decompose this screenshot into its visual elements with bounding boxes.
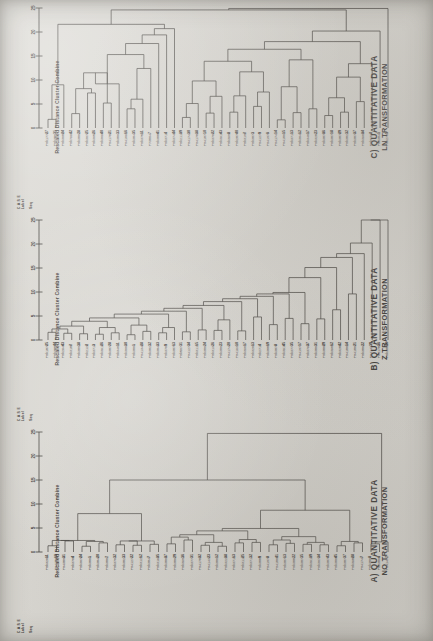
- svg-text:P0b3821: P0b3821: [122, 556, 126, 570]
- svg-text:P0b3861: P0b3861: [105, 556, 109, 570]
- svg-text:15: 15: [31, 53, 36, 59]
- svg-text:P041273: P041273: [130, 556, 134, 570]
- svg-text:10: 10: [31, 77, 36, 83]
- svg-text:P0b3679: P0b3679: [79, 556, 83, 570]
- svg-text:P0b3801: P0b3801: [77, 344, 81, 358]
- svg-text:5: 5: [31, 102, 36, 105]
- svg-text:0: 0: [31, 338, 36, 341]
- svg-text:P0b3879: P0b3879: [353, 132, 357, 146]
- svg-text:P0b3965: P0b3965: [330, 344, 334, 358]
- svg-text:P0b3877: P0b3877: [343, 556, 347, 570]
- svg-text:P0b3877: P0b3877: [108, 344, 112, 358]
- svg-text:P0b3902: P0b3902: [227, 132, 231, 146]
- svg-text:P0b3861: P0b3861: [53, 132, 57, 146]
- svg-text:P0b2125: P0b2125: [85, 344, 89, 358]
- svg-text:P0b3915: P0b3915: [219, 132, 223, 146]
- svg-text:P0b3463: P0b3463: [306, 132, 310, 146]
- svg-text:P0b3867: P0b3867: [203, 344, 207, 358]
- svg-text:P0b3847: P0b3847: [147, 556, 151, 570]
- svg-text:20: 20: [31, 29, 36, 35]
- svg-text:P0b3281: P0b3281: [338, 344, 342, 358]
- svg-text:P0b3713: P0b3713: [290, 132, 294, 146]
- svg-text:P0b3105: P0b3105: [243, 132, 247, 146]
- svg-text:P041747: P041747: [274, 132, 278, 146]
- svg-text:P041861: P041861: [275, 556, 279, 570]
- svg-text:P0b3713: P0b3713: [92, 344, 96, 358]
- panel-caption-c: C) QUANTITATIVE DATA LN TRANSFORMATION: [370, 55, 389, 158]
- svg-text:P0b3649: P0b3649: [298, 132, 302, 146]
- svg-text:P0b3861: P0b3861: [77, 132, 81, 146]
- svg-text:P0b1879: P0b1879: [45, 344, 49, 358]
- svg-text:P041077: P041077: [298, 344, 302, 358]
- svg-text:P0b3269: P0b3269: [251, 344, 255, 358]
- svg-text:P0b3228: P0b3228: [224, 556, 228, 570]
- svg-text:P0b3669: P0b3669: [124, 344, 128, 358]
- svg-text:P0b3185: P0b3185: [69, 344, 73, 358]
- svg-text:P0b2877: P0b2877: [235, 132, 239, 146]
- svg-text:25: 25: [31, 429, 36, 435]
- svg-text:P0b3659: P0b3659: [92, 132, 96, 146]
- svg-text:P0b2711: P0b2711: [258, 344, 262, 358]
- svg-text:P0b3847: P0b3847: [132, 132, 136, 146]
- svg-text:P0b3679: P0b3679: [317, 556, 321, 570]
- svg-text:P0b3875: P0b3875: [338, 132, 342, 146]
- svg-text:P0b3849: P0b3849: [96, 556, 100, 570]
- svg-text:P0b3879: P0b3879: [283, 556, 287, 570]
- svg-text:P0b3885: P0b3885: [266, 344, 270, 358]
- svg-text:P0b3679: P0b3679: [85, 132, 89, 146]
- svg-text:P041077: P041077: [266, 132, 270, 146]
- svg-text:10: 10: [31, 289, 36, 295]
- svg-text:P0b3867: P0b3867: [173, 556, 177, 570]
- svg-text:P0b3777: P0b3777: [190, 556, 194, 570]
- svg-text:P041788: P041788: [198, 556, 202, 570]
- svg-text:P041789: P041789: [108, 132, 112, 146]
- svg-text:P0b3125: P0b3125: [139, 556, 143, 570]
- svg-text:P0b3877: P0b3877: [326, 556, 330, 570]
- svg-text:P0b3269: P0b3269: [45, 556, 49, 570]
- svg-text:P73864: P73864: [148, 134, 152, 146]
- svg-text:P0b3761: P0b3761: [71, 556, 75, 570]
- svg-text:P0b3861: P0b3861: [116, 132, 120, 146]
- svg-text:P0b3134: P0b3134: [211, 344, 215, 358]
- svg-text:P041395: P041395: [54, 556, 58, 570]
- svg-text:P0b3711: P0b3711: [249, 556, 253, 570]
- svg-text:P0b3799: P0b3799: [306, 344, 310, 358]
- svg-text:P041345: P041345: [140, 344, 144, 358]
- svg-text:P0b3960: P0b3960: [243, 344, 247, 358]
- svg-text:P0b3965: P0b3965: [361, 132, 365, 146]
- svg-text:P0b3915: P0b3915: [282, 344, 286, 358]
- svg-text:P0b3863: P0b3863: [215, 556, 219, 570]
- svg-text:P0b3777: P0b3777: [290, 344, 294, 358]
- svg-text:P0b3864: P0b3864: [88, 556, 92, 570]
- svg-text:P0b1779: P0b1779: [45, 132, 49, 146]
- svg-text:P041933: P041933: [235, 344, 239, 358]
- svg-text:P0b3864: P0b3864: [132, 344, 136, 358]
- svg-text:P0b7991: P0b7991: [69, 132, 73, 146]
- svg-text:P041273: P041273: [187, 344, 191, 358]
- svg-text:5: 5: [31, 314, 36, 317]
- svg-text:P0b3463: P0b3463: [116, 344, 120, 358]
- svg-text:P0b3885: P0b3885: [156, 132, 160, 146]
- svg-text:P0b3867: P0b3867: [314, 344, 318, 358]
- svg-text:P0b3915: P0b3915: [309, 556, 313, 570]
- svg-text:P041789: P041789: [195, 132, 199, 146]
- svg-text:P0b3821: P0b3821: [148, 344, 152, 358]
- svg-text:P041433: P041433: [207, 556, 211, 570]
- svg-text:P041743: P041743: [187, 132, 191, 146]
- svg-text:15: 15: [31, 265, 36, 271]
- svg-text:20: 20: [31, 453, 36, 459]
- svg-text:P0b3715: P0b3715: [232, 556, 236, 570]
- svg-text:P0b3881: P0b3881: [292, 556, 296, 570]
- svg-text:P0b3877: P0b3877: [274, 344, 278, 358]
- svg-text:P0b3875: P0b3875: [172, 344, 176, 358]
- svg-text:P0b3761: P0b3761: [113, 556, 117, 570]
- svg-text:P0b3699: P0b3699: [100, 132, 104, 146]
- dendrogram-svg-c: 051015202527P0b177931P0b386124P0b368542P…: [0, 0, 433, 213]
- svg-text:P0b3861: P0b3861: [361, 344, 365, 358]
- svg-text:P0b3741: P0b3741: [172, 132, 176, 146]
- svg-text:P041869: P041869: [345, 344, 349, 358]
- panel-caption-a: A) QUANTITATIVE DATA NO TRANSFORMATION: [370, 479, 389, 582]
- svg-text:P0b3115: P0b3115: [195, 344, 199, 358]
- svg-text:P0b2115: P0b2115: [179, 132, 183, 146]
- svg-text:7: 7: [148, 132, 152, 134]
